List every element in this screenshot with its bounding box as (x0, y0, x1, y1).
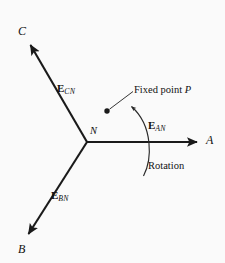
axis-label-b: B (18, 243, 25, 255)
phasor-label-ebn: EBN (51, 190, 69, 203)
fixed-point-label: Fixed point P (134, 85, 191, 96)
fixed-point-leader-line (110, 92, 134, 110)
node-label-n: N (90, 126, 97, 137)
axis-label-a: A (206, 134, 213, 146)
phasor-ecn-subscript: CN (64, 87, 75, 96)
diagram-canvas (0, 0, 225, 263)
phasor-diagram-figure: C B A N ECN EBN EAN Fixed point P Rotati… (0, 0, 225, 263)
fixed-point-label-p: P (185, 84, 191, 95)
phasor-ebn-subscript: BN (58, 194, 68, 203)
phasor-label-ean: EAN (148, 120, 166, 133)
fixed-point-label-text: Fixed point (134, 84, 185, 95)
phase-b-axis-line (29, 142, 88, 234)
phasor-label-ecn: ECN (57, 83, 75, 96)
rotation-label: Rotation (148, 161, 184, 172)
fixed-point-dot (104, 108, 109, 113)
axis-label-c: C (18, 25, 26, 37)
phasor-ean-subscript: AN (155, 124, 165, 133)
